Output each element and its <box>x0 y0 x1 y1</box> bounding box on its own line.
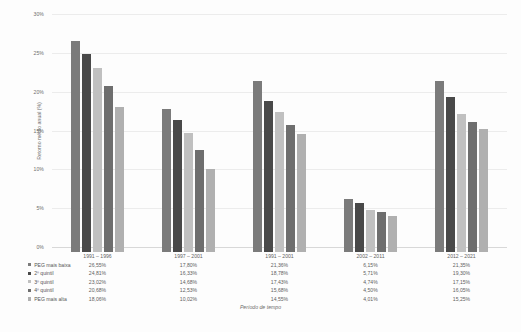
legend-chip <box>173 247 183 252</box>
legend-chip <box>82 247 92 252</box>
bar <box>446 97 456 247</box>
legend-chip <box>297 247 307 252</box>
legend-chip <box>457 247 467 252</box>
legend-label: 4º quintil <box>34 287 53 293</box>
table-cell-value: 23,02% <box>59 279 136 285</box>
y-axis-ticks: 0%5%10%15%20%25%30% <box>14 14 48 247</box>
legend-chip-row <box>59 247 136 252</box>
table-cell-value: 20,68% <box>59 287 136 293</box>
legend-chip <box>479 247 489 252</box>
legend-swatch <box>28 297 31 300</box>
table-cell-value: 18,78% <box>241 270 318 276</box>
table-cell-value: 15,68% <box>241 287 318 293</box>
legend-chip <box>104 247 114 252</box>
legend-chip <box>388 247 398 252</box>
bar-group <box>162 14 216 247</box>
bar <box>275 112 285 247</box>
table-cell-value: 14,55% <box>241 296 318 302</box>
bar <box>104 86 114 247</box>
bar <box>286 125 296 247</box>
bar-groups <box>52 14 507 247</box>
legend-chip <box>275 247 285 252</box>
bar <box>93 68 103 247</box>
period-label: 2012 – 2021 <box>423 253 500 259</box>
bar <box>195 150 205 247</box>
bar <box>82 54 92 247</box>
table-column-header: 1991 – 2001 <box>241 247 318 259</box>
x-axis-title: Período de tempo <box>0 304 521 310</box>
data-table: 1991 – 19961997 – 20011991 – 20012002 – … <box>0 247 521 317</box>
table-cell-value: 18,06% <box>59 296 136 302</box>
bar <box>184 133 194 247</box>
y-axis-tick-label: 25% <box>34 50 45 56</box>
bar <box>355 203 365 247</box>
table-cell-value: 21,36% <box>241 262 318 268</box>
bar <box>264 101 274 247</box>
table-cell-value: 14,68% <box>150 279 227 285</box>
table-cell-value: 16,05% <box>423 287 500 293</box>
bar <box>457 114 467 247</box>
table-cell-value: 16,33% <box>150 270 227 276</box>
bar <box>435 81 445 247</box>
bar-group <box>435 14 489 247</box>
period-label: 1991 – 2001 <box>241 253 318 259</box>
legend-chip <box>253 247 263 252</box>
bar-group <box>253 14 307 247</box>
table-cell-value: 4,01% <box>332 296 409 302</box>
table-row: PEG mais alta18,06%10,02%14,55%4,01%15,2… <box>0 294 521 303</box>
legend-chip-row <box>241 247 318 252</box>
bar <box>253 81 263 247</box>
table-cell-value: 15,25% <box>423 296 500 302</box>
legend-chip <box>264 247 274 252</box>
table-column-header: 2002 – 2011 <box>332 247 409 259</box>
table-cell-value: 6,15% <box>332 262 409 268</box>
table-cell-value: 12,53% <box>150 287 227 293</box>
y-axis-tick-label: 30% <box>34 11 45 17</box>
table-cell-value: 17,43% <box>241 279 318 285</box>
bar <box>162 109 172 247</box>
legend-label: 3º quintil <box>34 279 53 285</box>
legend-chip-row <box>423 247 500 252</box>
bar <box>468 122 478 247</box>
y-axis-tick-label: 10% <box>34 166 45 172</box>
period-label: 2002 – 2011 <box>332 253 409 259</box>
table-header-row: 1991 – 19961997 – 20011991 – 20012002 – … <box>0 247 521 259</box>
legend-chip <box>366 247 376 252</box>
table-cell-value: 4,50% <box>332 287 409 293</box>
legend-chip <box>184 247 194 252</box>
legend-chip <box>355 247 365 252</box>
plot-area <box>52 14 507 247</box>
table-cell-value: 17,15% <box>423 279 500 285</box>
bar-group <box>344 14 398 247</box>
table-column-header: 1991 – 1996 <box>59 247 136 259</box>
legend-chip <box>468 247 478 252</box>
legend-chip <box>115 247 125 252</box>
table-cell-value: 4,74% <box>332 279 409 285</box>
legend-chip <box>344 247 354 252</box>
legend-label: 2º quintil <box>34 270 53 276</box>
legend-chip <box>162 247 172 252</box>
legend-chip <box>71 247 81 252</box>
table-column-header: 1997 – 2001 <box>150 247 227 259</box>
bar <box>479 129 489 247</box>
bar <box>206 169 216 247</box>
bar <box>388 216 398 247</box>
legend-swatch <box>28 272 31 275</box>
table-cell-value: 10,02% <box>150 296 227 302</box>
y-axis-tick-label: 5% <box>36 205 44 211</box>
bar <box>115 107 125 247</box>
bar <box>297 134 307 247</box>
legend-chip <box>206 247 216 252</box>
bar <box>344 199 354 247</box>
legend-chip <box>286 247 296 252</box>
legend-chip-row <box>150 247 227 252</box>
table-cell-value: 19,30% <box>423 270 500 276</box>
legend-chip-row <box>332 247 409 252</box>
table-cell-value: 26,55% <box>59 262 136 268</box>
y-axis-tick-label: 20% <box>34 89 45 95</box>
table-cell-value: 24,81% <box>59 270 136 276</box>
legend-swatch <box>28 280 31 283</box>
table-column-header: 2012 – 2021 <box>423 247 500 259</box>
bar <box>377 212 387 247</box>
bar <box>173 120 183 247</box>
